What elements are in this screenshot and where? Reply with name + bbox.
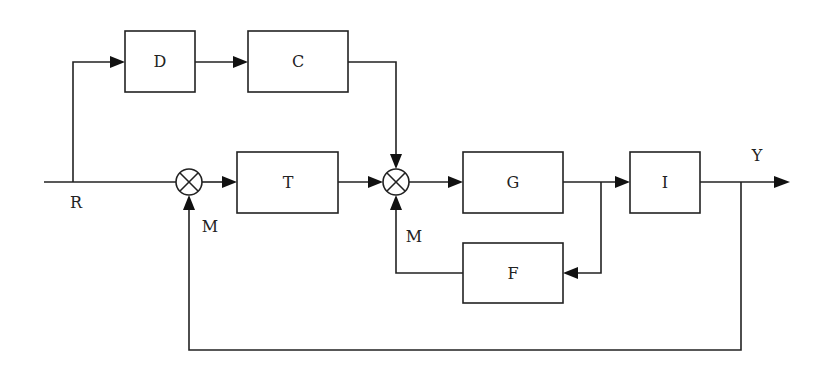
arrow-into-g-icon (448, 176, 463, 188)
arrow-into-f-icon (563, 267, 578, 279)
g-to-f-wire (578, 182, 601, 273)
block-t-label: T (283, 173, 294, 192)
arrow-into-i-icon (615, 176, 630, 188)
block-d-label: D (154, 52, 167, 71)
input-label-r: R (70, 193, 83, 212)
block-i-label: I (662, 173, 668, 192)
arrow-into-sum2-left-icon (368, 176, 383, 188)
block-f-label: F (507, 264, 518, 283)
block-i: I (630, 152, 700, 213)
arrow-into-t-icon (222, 176, 237, 188)
block-t: T (237, 152, 338, 213)
block-c-label: C (292, 52, 304, 71)
sum-junction-1 (176, 169, 202, 195)
arrow-into-sum1-bottom-icon (183, 195, 195, 210)
sum-junction-2 (383, 169, 409, 195)
arrow-into-sum2-top-icon (390, 154, 402, 169)
block-f: F (463, 243, 563, 303)
arrow-into-c-icon (233, 56, 248, 68)
c-to-sum2-wire (348, 62, 396, 162)
block-g: G (463, 152, 563, 213)
feedback-label-m-outer: M (202, 217, 218, 236)
feedforward-branch-wire (73, 62, 118, 182)
block-g-label: G (507, 173, 520, 192)
arrow-into-sum2-bottom-icon (390, 195, 402, 210)
output-label-y: Y (751, 146, 763, 165)
block-d: D (125, 31, 195, 92)
block-c: C (248, 31, 348, 92)
feedback-label-m-inner: M (406, 227, 422, 246)
block-diagram: D C T G I F R M M Y (0, 0, 825, 370)
arrow-output-icon (774, 176, 790, 188)
arrow-into-d-icon (110, 56, 125, 68)
